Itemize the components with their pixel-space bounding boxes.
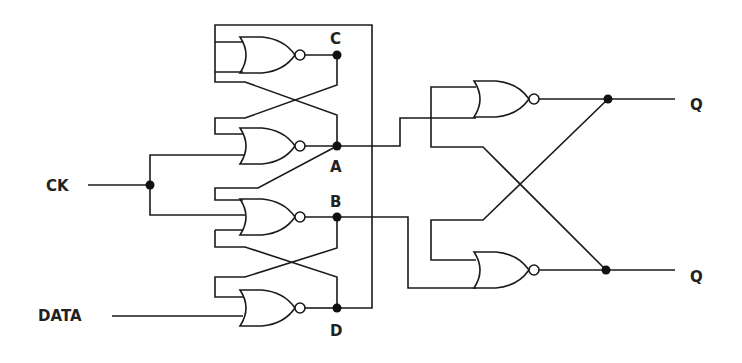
ck-wire xyxy=(88,155,245,215)
q-junction-dot xyxy=(604,95,613,104)
nor-gate-2 xyxy=(240,128,305,164)
label-node-c: C xyxy=(330,30,341,48)
feedback-frame-wire xyxy=(215,25,372,308)
latch-cross-wires xyxy=(431,87,608,270)
label-q-bar: Q xyxy=(690,268,703,286)
nor-gate-3 xyxy=(240,199,305,235)
gate1-input-wires xyxy=(215,42,243,72)
q-bar-junction-dot xyxy=(602,266,611,275)
label-node-a: A xyxy=(330,158,342,176)
circuit-diagram xyxy=(0,0,742,363)
nor-gate-1 xyxy=(240,37,305,73)
gate3-input-wire xyxy=(215,188,243,230)
label-node-b: B xyxy=(330,193,341,211)
label-data: DATA xyxy=(38,307,82,325)
label-q: Q xyxy=(690,96,703,114)
label-node-d: D xyxy=(330,322,342,340)
node-b-wire xyxy=(305,217,476,288)
nor-gate-6 xyxy=(474,252,539,288)
node-b-dot xyxy=(333,213,342,222)
nor-gate-4 xyxy=(240,290,305,326)
label-ck: CK xyxy=(46,177,69,195)
ck-junction-dot xyxy=(146,181,155,190)
node-a-dot xyxy=(333,142,342,151)
node-c-dot xyxy=(333,51,342,60)
node-d-dot xyxy=(333,304,342,313)
nor-gate-5 xyxy=(474,81,539,117)
node-a-wire xyxy=(305,118,476,146)
